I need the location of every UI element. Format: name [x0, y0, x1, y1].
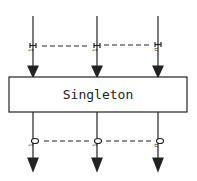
input-arrows [28, 16, 163, 77]
input-subscripts: 1 1 n [27, 47, 159, 52]
svg-text:n: n [152, 143, 159, 147]
svg-text:1: 1 [27, 48, 34, 52]
svg-text:1: 1 [27, 143, 34, 147]
svg-text:1: 1 [91, 143, 98, 147]
input-markers [30, 42, 161, 48]
output-markers [32, 139, 164, 144]
output-subscripts: 1 1 n [27, 143, 159, 147]
svg-text:1: 1 [91, 48, 98, 52]
svg-text:n: n [152, 47, 159, 51]
singleton-label: Singleton [9, 77, 187, 112]
